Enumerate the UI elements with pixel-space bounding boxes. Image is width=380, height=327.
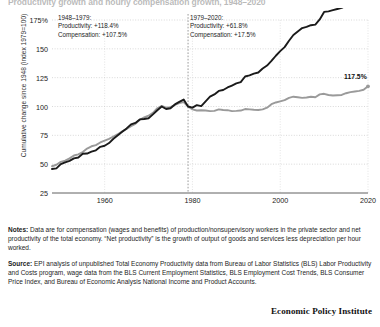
period-1979-2020-line-0: Productivity: +61.8% [190, 22, 256, 30]
period-1979-2020-line-1: Compensation: +17.5% [190, 31, 256, 39]
notes-paragraph: Notes: Data are for compensation (wages … [8, 225, 372, 253]
plot-area: Cumulative change since 1948 (index 1979… [0, 8, 380, 208]
period-1979-2020-period: 1979–2020: [190, 14, 256, 22]
notes-label: Notes: [8, 226, 28, 233]
annotation-period-1979-2020: 1979–2020:Productivity: +61.8%Compensati… [190, 14, 256, 39]
period-1948-1979-line-1: Compensation: +107.5% [58, 31, 127, 39]
chart-page: Productivity growth and hourly compensat… [0, 0, 380, 327]
brand-label: Economic Policy Institute [271, 306, 372, 316]
footnotes: Notes: Data are for compensation (wages … [8, 225, 372, 292]
source-text: EPI analysis of unpublished Total Econom… [8, 260, 371, 285]
period-1948-1979-line-0: Productivity: +118.4% [58, 22, 127, 30]
source-paragraph: Source: EPI analysis of unpublished Tota… [8, 259, 372, 287]
annotation-period-1948-1979: 1948–1979:Productivity: +118.4%Compensat… [58, 14, 127, 39]
source-label: Source: [8, 260, 32, 267]
chart-title: Productivity growth and hourly compensat… [8, 0, 265, 7]
period-1948-1979-period: 1948–1979: [58, 14, 127, 22]
series-end-label-compensation: 117.5% [344, 73, 367, 80]
notes-text: Data are for compensation (wages and ben… [8, 226, 361, 251]
